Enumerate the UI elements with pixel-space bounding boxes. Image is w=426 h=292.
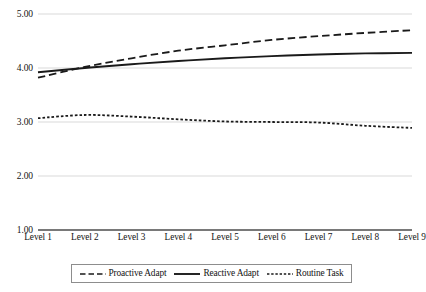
legend-item-label: Reactive Adapt (203, 268, 258, 279)
long-dash-line-icon (80, 270, 106, 278)
solid-line-icon (174, 270, 200, 278)
legend-item: Proactive Adapt (76, 268, 171, 279)
x-axis-tick-label: Level 8 (352, 232, 379, 243)
y-axis-tick-label: 3.00 (3, 117, 33, 127)
x-axis-tick-label: Level 9 (398, 232, 425, 243)
x-axis-tick-label: Level 1 (24, 232, 51, 243)
legend-item: Routine Task (263, 268, 348, 279)
gridlines (38, 14, 412, 230)
x-axis-tick-label: Level 7 (305, 232, 332, 243)
series-line (38, 115, 412, 128)
series-line (38, 53, 412, 72)
legend-item-label: Proactive Adapt (109, 268, 167, 279)
legend-item: Reactive Adapt (170, 268, 262, 279)
y-axis-tick-label: 2.00 (3, 171, 33, 181)
x-axis-tick-label: Level 3 (118, 232, 145, 243)
short-dash-line-icon (267, 270, 293, 278)
x-axis-tick-label: Level 5 (211, 232, 238, 243)
y-axis-tick-label: 5.00 (3, 9, 33, 19)
x-axis-tick-label: Level 6 (258, 232, 285, 243)
x-axis-tick-labels: Level 1Level 2Level 3Level 4Level 5Level… (0, 232, 424, 248)
legend-item-label: Routine Task (296, 268, 344, 279)
legend: Proactive Adapt Reactive Adapt Routine T… (71, 264, 352, 283)
x-axis-tick-label: Level 4 (165, 232, 192, 243)
y-axis-tick-labels: 5.00 4.00 3.00 2.00 1.00 (0, 0, 33, 292)
x-axis-tick-label: Level 2 (71, 232, 98, 243)
y-axis-tick-label: 4.00 (3, 63, 33, 73)
series-lines (38, 30, 412, 128)
